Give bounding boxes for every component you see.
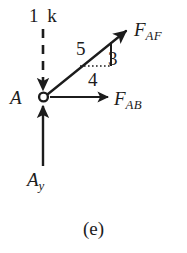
reaction-ay-label: Ay [27,170,45,189]
joint-label-a: A [10,88,22,107]
force-ab-symbol: F [114,88,126,109]
slope-vertical-label: 3 [108,49,118,68]
force-af-subscript: AF [146,28,162,43]
reaction-ay-symbol: A [27,169,39,190]
force-af-label: FAF [134,20,162,39]
force-ab-label: FAB [114,89,142,108]
joint-node-a [39,93,48,102]
slope-hypotenuse-label: 5 [76,39,86,58]
figure-caption: (e) [0,219,187,238]
force-ab-subscript: AB [126,97,142,112]
slope-horizontal-label: 4 [88,70,98,89]
applied-load-label: 1 k [29,6,59,25]
reaction-ay-subscript: y [39,178,45,193]
free-body-diagram: 1 k FAF FAB A Ay 5 3 4 (e) [0,0,187,253]
force-af-symbol: F [134,19,146,40]
